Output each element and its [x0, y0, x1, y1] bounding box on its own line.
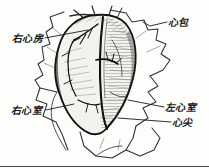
label-pericardium: 心包 [168, 17, 189, 28]
heart-body [51, 14, 145, 139]
label-cardiac-apex: 心尖 [172, 117, 193, 128]
label-right-atrium: 右心房 [12, 33, 43, 44]
anatomy-figure: 右心房 心包 右心室 左心室 心尖 [0, 0, 209, 168]
label-left-ventricle: 左心室 [165, 102, 196, 113]
label-right-ventricle: 右心室 [11, 105, 42, 116]
leader-left-ventricle [128, 100, 164, 107]
leader-cardiac-apex [118, 118, 171, 122]
